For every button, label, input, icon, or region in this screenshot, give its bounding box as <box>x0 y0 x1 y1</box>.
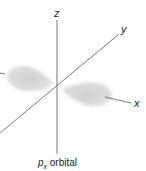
orbital-lobe-positive-x <box>57 82 112 108</box>
x-axis-label: x <box>134 98 140 109</box>
diagram-caption: px orbital <box>0 157 115 170</box>
orbital-lobe-negative-x <box>7 65 57 92</box>
y-axis-label: y <box>121 24 127 35</box>
x-axis-negative <box>0 73 5 74</box>
z-axis-label: z <box>54 8 60 19</box>
caption-text: orbital <box>47 157 77 168</box>
